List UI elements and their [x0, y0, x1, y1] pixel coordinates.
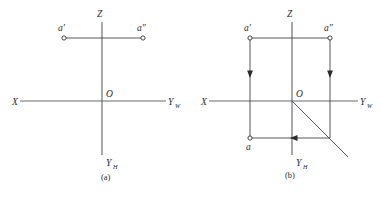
panel-a-canvas: a′ a″ Z X O Y W Y H: [0, 0, 190, 197]
panel-b-label-a-top: a: [246, 142, 251, 152]
panel-b: a′ a″ a Z X O Y W Y H: [190, 0, 380, 197]
panel-b-label-origin: O: [296, 89, 303, 99]
panel-b-label-a-side: a″: [324, 23, 334, 33]
panel-a-label-yw-sub: W: [175, 102, 181, 109]
panel-b-label-z: Z: [287, 9, 293, 19]
panel-b-point-a-side-marker: [328, 36, 332, 40]
panel-b-arrowhead-right-down: [327, 71, 333, 79]
panel-a-label-yh: Y: [106, 158, 113, 168]
panel-b-label-yh: Y: [296, 158, 303, 168]
panel-a-label-yh-sub: H: [112, 163, 118, 170]
panel-a-label-origin: O: [106, 89, 113, 99]
panel-a-label-a-side: a″: [137, 23, 147, 33]
panel-b-point-a-front-marker: [248, 36, 252, 40]
panel-b-arrowhead-left-down: [247, 71, 253, 79]
panel-a-label-yw: Y: [168, 97, 175, 107]
panel-b-label-a-front: a′: [244, 23, 252, 33]
panel-a-point-a-front-marker: [62, 36, 66, 40]
panel-a: a′ a″ Z X O Y W Y H: [0, 0, 190, 197]
panel-b-label-x: X: [200, 97, 208, 107]
panel-b-bisector-45: [292, 101, 348, 157]
panel-a-label-x: X: [11, 97, 19, 107]
panel-b-point-a-top-marker: [248, 136, 252, 140]
figure-bottom-caption: [118, 188, 268, 196]
caption-panel-a: (a): [101, 172, 110, 182]
panel-b-label-yw: Y: [360, 97, 367, 107]
panel-a-point-a-side-marker: [141, 36, 145, 40]
panel-b-arrowhead-bottom-left: [290, 135, 298, 141]
panel-a-label-z: Z: [97, 9, 103, 19]
caption-panel-b: (b): [285, 170, 295, 180]
projection-figure: a′ a″ Z X O Y W Y H: [0, 0, 381, 197]
panel-b-label-yh-sub: H: [302, 163, 308, 170]
panel-a-label-a-front: a′: [58, 23, 66, 33]
panel-b-canvas: a′ a″ a Z X O Y W Y H: [190, 0, 380, 197]
panel-b-label-yw-sub: W: [367, 102, 373, 109]
